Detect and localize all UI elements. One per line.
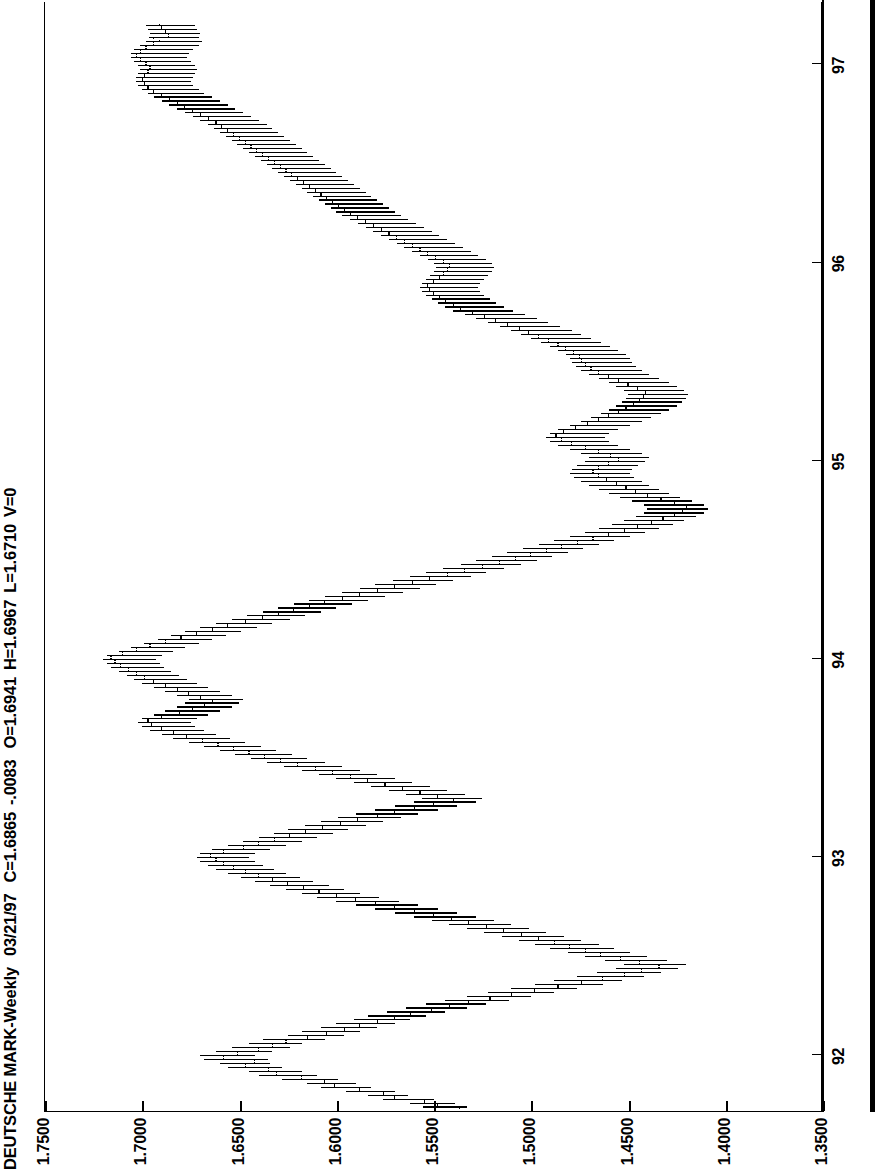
price-tick [629, 1101, 631, 1111]
page-bottom-rule [870, 0, 875, 1112]
price-tick [240, 1101, 242, 1111]
price-tick-label: 1.7000 [132, 1112, 150, 1165]
year-tick [812, 658, 823, 659]
price-tick-label: 1.3500 [813, 1112, 831, 1165]
instrument-label: DEUTSCHE MARK-Weekly [1, 967, 19, 1170]
chart-figure: DEUTSCHE MARK-Weekly03/21/97C=1.6865-.00… [0, 0, 882, 1170]
price-tick-label: 1.5000 [521, 1112, 539, 1165]
open-value: O=1.6941 [1, 677, 19, 748]
close-value: C=1.6865 [1, 812, 19, 882]
price-tick-label: 1.7500 [35, 1112, 53, 1165]
year-tick [812, 262, 823, 263]
price-tick-label: 1.4500 [619, 1112, 637, 1165]
year-tick-label: 97 [830, 57, 848, 74]
price-tick [142, 1101, 144, 1111]
year-tick-label: 93 [830, 850, 848, 867]
price-tick [45, 1101, 47, 1111]
volume-value: V=0 [1, 488, 19, 517]
year-tick-label: 96 [830, 255, 848, 272]
change-value: -.0083 [1, 759, 19, 805]
low-value: L=1.6710 [1, 524, 19, 593]
axis-baseline [822, 0, 824, 1112]
year-tick [812, 856, 823, 857]
quote-date: 03/21/97 [1, 893, 19, 956]
year-tick [812, 1055, 823, 1056]
year-tick-label: 95 [830, 453, 848, 470]
year-tick [812, 63, 823, 64]
price-tick [337, 1101, 339, 1111]
chart-title-bar: DEUTSCHE MARK-Weekly03/21/97C=1.6865-.00… [0, 477, 22, 1170]
plot-area [44, 2, 822, 1112]
price-tick-label: 1.6000 [327, 1112, 345, 1165]
price-tick [726, 1101, 728, 1111]
price-tick [531, 1101, 533, 1111]
price-tick-label: 1.6500 [230, 1112, 248, 1165]
ohlc-series [45, 2, 821, 1111]
high-value: H=1.6967 [1, 600, 19, 670]
price-tick-label: 1.4000 [716, 1112, 734, 1165]
year-tick [812, 460, 823, 461]
year-tick-label: 94 [830, 651, 848, 668]
price-tick-label: 1.5500 [424, 1112, 442, 1165]
year-tick-label: 92 [830, 1048, 848, 1065]
price-tick [434, 1101, 436, 1111]
